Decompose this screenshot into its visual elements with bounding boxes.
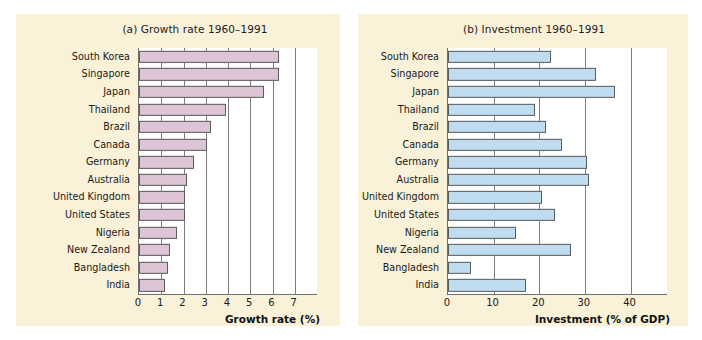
bar (139, 279, 165, 291)
panel-a-title: (a) Growth rate 1960–1991 (16, 23, 340, 35)
bar (448, 103, 535, 115)
bar (448, 209, 555, 221)
panel-b-x-ticks: 010203040 (447, 297, 666, 311)
category-label: Nigeria (96, 228, 130, 238)
bar (139, 68, 279, 80)
panel-b-plot-area (447, 48, 667, 295)
x-tick-label: 4 (224, 297, 230, 308)
category-label: Thailand (398, 105, 439, 115)
bar (448, 244, 571, 256)
bar (448, 138, 562, 150)
category-label: Thailand (89, 105, 130, 115)
category-label: New Zealand (376, 245, 439, 255)
category-label: Canada (402, 140, 439, 150)
category-label: South Korea (72, 52, 130, 62)
category-label: United States (65, 210, 130, 220)
x-tick-label: 2 (179, 297, 185, 308)
bar (448, 51, 551, 63)
panel-growth-rate: (a) Growth rate 1960–1991 South KoreaSin… (16, 14, 340, 326)
panel-b-title: (b) Investment 1960–1991 (358, 23, 688, 35)
bar (139, 174, 187, 186)
gridline (273, 48, 274, 294)
category-label: Singapore (391, 70, 439, 80)
bar (139, 226, 177, 238)
bar (448, 156, 587, 168)
category-label: Japan (103, 87, 130, 97)
panel-b-x-axis-label: Investment (% of GDP) (535, 313, 670, 325)
category-label: Bangladesh (74, 263, 130, 273)
bar (448, 68, 596, 80)
bar (139, 86, 264, 98)
bar (448, 261, 471, 273)
bar (448, 86, 615, 98)
bar (139, 103, 226, 115)
category-label: Nigeria (405, 228, 439, 238)
panel-a-category-labels: South KoreaSingaporeJapanThailandBrazilC… (16, 48, 134, 294)
x-tick-label: 40 (623, 297, 636, 308)
x-tick-label: 10 (486, 297, 499, 308)
x-tick-label: 0 (444, 297, 450, 308)
figure-canvas: (a) Growth rate 1960–1991 South KoreaSin… (0, 0, 702, 340)
x-tick-label: 6 (268, 297, 274, 308)
bar (139, 209, 185, 221)
category-label: Singapore (82, 70, 130, 80)
x-tick-label: 20 (532, 297, 545, 308)
category-label: Germany (395, 157, 439, 167)
bar (448, 121, 546, 133)
bar (448, 226, 516, 238)
bar (139, 138, 207, 150)
bar (139, 191, 185, 203)
category-label: Japan (412, 87, 439, 97)
bar (139, 156, 194, 168)
category-label: United States (374, 210, 439, 220)
category-label: South Korea (381, 52, 439, 62)
category-label: United Kingdom (362, 193, 439, 203)
category-label: India (415, 280, 439, 290)
bar (448, 191, 542, 203)
category-label: United Kingdom (53, 193, 130, 203)
panel-a-x-axis-label: Growth rate (%) (225, 313, 320, 325)
x-tick-label: 5 (246, 297, 252, 308)
category-label: Germany (86, 157, 130, 167)
x-tick-label: 1 (157, 297, 163, 308)
panel-investment: (b) Investment 1960–1991 South KoreaSing… (358, 14, 688, 326)
category-label: Bangladesh (383, 263, 439, 273)
category-label: Brazil (412, 122, 439, 132)
category-label: Brazil (103, 122, 130, 132)
category-label: Canada (93, 140, 130, 150)
x-tick-label: 7 (291, 297, 297, 308)
panel-a-x-ticks: 01234567 (138, 297, 316, 311)
bar (139, 261, 168, 273)
x-tick-label: 0 (135, 297, 141, 308)
gridline (295, 48, 296, 294)
bar (448, 174, 589, 186)
bar (139, 51, 279, 63)
panel-a-plot-area (138, 48, 317, 295)
category-label: Australia (397, 175, 439, 185)
panel-b-category-labels: South KoreaSingaporeJapanThailandBrazilC… (358, 48, 443, 294)
x-tick-label: 3 (202, 297, 208, 308)
category-label: India (106, 280, 130, 290)
category-label: New Zealand (67, 245, 130, 255)
bar (139, 244, 170, 256)
gridline (631, 48, 632, 294)
x-tick-label: 30 (578, 297, 591, 308)
category-label: Australia (88, 175, 130, 185)
bar (139, 121, 211, 133)
bar (448, 279, 526, 291)
